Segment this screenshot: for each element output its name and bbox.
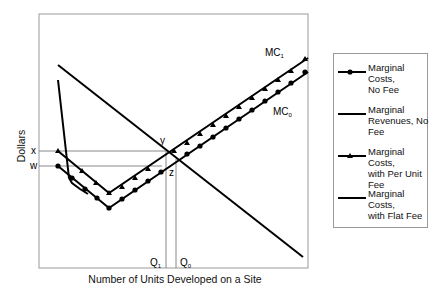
- solid-line-icon: [338, 110, 366, 118]
- point-label-z: z: [169, 167, 174, 178]
- diamond-line-icon: [338, 68, 366, 76]
- legend-item-mc-no-fee: Marginal Costs, No Fee: [334, 62, 429, 96]
- series-mc-no-fee: [58, 72, 308, 208]
- curve-label-mc0: MC0: [273, 106, 293, 118]
- legend-label: Marginal Costs, No Fee: [368, 62, 430, 95]
- y-tick-w: w: [29, 160, 38, 171]
- x-axis-label: Number of Units Developed on a Site: [60, 273, 290, 285]
- y-tick-x: x: [31, 145, 36, 156]
- legend-label: Marginal Costs, with Flat Fee: [368, 188, 430, 221]
- y-axis-label: Dollars: [15, 121, 27, 171]
- legend-item-mc-per-unit-fee: Marginal Costs, with Per Unit Fee: [334, 146, 429, 180]
- point-label-y: y: [160, 135, 165, 146]
- legend: Marginal Costs, No Fee Marginal Revenues…: [333, 53, 428, 228]
- triangle-line-icon: [338, 152, 366, 160]
- mc1-triangle-markers: [55, 56, 308, 195]
- legend-label: Marginal Costs, with Per Unit Fee: [368, 146, 430, 190]
- series-mc-per-unit-fee: [58, 58, 308, 193]
- legend-label: Marginal Revenues, No Fee: [368, 104, 430, 137]
- legend-item-mr-no-fee: Marginal Revenues, No Fee: [334, 104, 429, 138]
- x-tick-q0: Q0: [180, 257, 192, 269]
- curve-label-mc1: MC1: [265, 47, 285, 59]
- solid-line-icon: [338, 194, 366, 202]
- legend-item-mc-flat-fee: Marginal Costs, with Flat Fee: [334, 188, 429, 222]
- x-tick-q1: Q1: [150, 257, 162, 269]
- series-marginal-revenues: [58, 65, 303, 257]
- mc0-diamond-markers: [55, 69, 307, 210]
